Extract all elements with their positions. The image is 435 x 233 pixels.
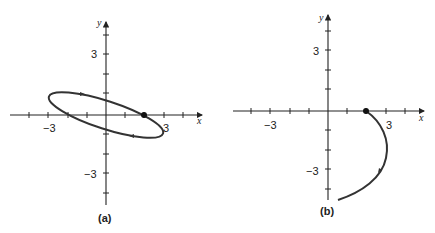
x-axis-label: x xyxy=(196,115,202,126)
start-point xyxy=(141,112,147,118)
x-tick-label-neg3: −3 xyxy=(264,119,277,131)
x-tick-label-3: 3 xyxy=(386,119,392,131)
arc-curve xyxy=(338,111,387,200)
y-tick-label-3: 3 xyxy=(313,45,319,57)
caption-a: (a) xyxy=(98,212,112,224)
y-tick-label-neg3: −3 xyxy=(84,168,97,180)
panel-b: −3 3 3 −3 x y (b) xyxy=(233,12,424,217)
figure: −3 3 3 −3 x y (a) xyxy=(0,0,435,233)
direction-arrow-icon xyxy=(129,134,134,138)
panel-a: −3 3 3 −3 x y (a) xyxy=(10,17,202,224)
y-axis-label: y xyxy=(96,17,102,28)
y-axis-label: y xyxy=(318,12,324,23)
y-tick-label-3: 3 xyxy=(91,48,97,60)
x-tick-label-neg3: −3 xyxy=(43,122,56,134)
start-point xyxy=(363,108,369,114)
y-tick-label-neg3: −3 xyxy=(306,165,319,177)
caption-b: (b) xyxy=(320,205,334,217)
x-tick-label-3: 3 xyxy=(163,122,169,134)
x-axis-label: x xyxy=(418,112,424,123)
